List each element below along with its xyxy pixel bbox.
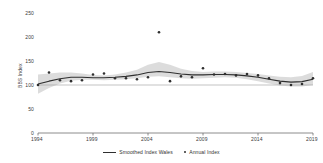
annual-index-point	[147, 76, 150, 79]
annual-index-point	[301, 83, 304, 86]
annual-index-point	[158, 31, 161, 34]
x-tick-label: 2009	[196, 136, 208, 142]
y-tick-label: 50	[22, 106, 34, 112]
annual-index-point	[92, 73, 95, 76]
annual-index-point	[246, 73, 249, 76]
annual-index-point	[114, 77, 117, 80]
annual-index-point	[224, 73, 227, 76]
annual-index-point	[268, 77, 271, 80]
annual-index-point	[59, 79, 62, 82]
legend-label-smoothed: Smoothed Index Wales	[119, 149, 173, 155]
legend-item-annual: Annual Index	[184, 149, 220, 155]
annual-index-point	[169, 80, 172, 83]
annual-index-point	[125, 77, 128, 80]
annual-index-point	[290, 84, 293, 87]
legend-line-marker	[103, 152, 116, 153]
y-tick-label: 100	[22, 82, 34, 88]
bbs-index-chart: BBS Index Smoothed Index Wales Annual In…	[0, 0, 323, 163]
y-tick-label: 0	[22, 130, 34, 136]
annual-index-point	[202, 67, 205, 70]
annual-index-point	[180, 75, 183, 78]
annual-index-point	[48, 71, 51, 74]
chart-legend: Smoothed Index Wales Annual Index	[0, 146, 323, 158]
annual-index-point	[235, 74, 238, 77]
annual-index-point	[279, 82, 282, 85]
x-tick-label: 2004	[141, 136, 153, 142]
y-tick-label: 150	[22, 58, 34, 64]
annual-index-point	[70, 80, 73, 83]
annual-index-point	[213, 73, 216, 76]
annual-index-point	[191, 76, 194, 79]
legend-dot-marker	[184, 151, 186, 153]
x-tick-label: 1994	[31, 136, 43, 142]
annual-index-point	[81, 79, 84, 82]
plot-canvas	[0, 0, 323, 163]
x-tick-label: 2014	[251, 136, 263, 142]
legend-label-annual: Annual Index	[189, 149, 219, 155]
y-tick-label: 250	[22, 10, 34, 16]
x-tick-label: 1999	[86, 136, 98, 142]
annual-index-point	[312, 77, 315, 80]
x-tick-label: 2019	[306, 136, 318, 142]
annual-index-point	[103, 72, 106, 75]
annual-index-point	[136, 78, 139, 81]
y-tick-label: 200	[22, 34, 34, 40]
annual-index-point	[37, 84, 40, 87]
annual-index-point	[257, 74, 260, 77]
legend-item-smoothed: Smoothed Index Wales	[103, 149, 173, 155]
